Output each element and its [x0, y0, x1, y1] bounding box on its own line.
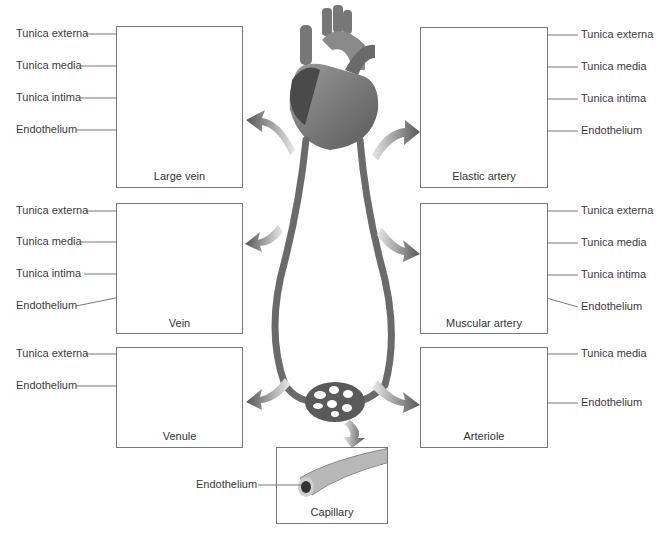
panel-caption: Elastic artery [421, 170, 547, 182]
arrow-to-elastic-artery [372, 120, 420, 160]
label-vein-endothelium: Endothelium [16, 299, 77, 312]
heart-illustration [290, 5, 379, 150]
arrow-to-arteriole [372, 380, 420, 413]
label-vein-tunica-media: Tunica media [16, 235, 82, 248]
arrow-to-capillary [343, 420, 365, 448]
label-muscular-artery-tunica-media: Tunica media [581, 236, 647, 249]
panel-capillary: Capillary [276, 447, 388, 524]
panel-venule: Venule [116, 347, 243, 448]
label-vein-tunica-externa: Tunica externa [16, 204, 88, 217]
panel-caption: Vein [117, 317, 242, 329]
label-muscular-artery-endothelium: Endothelium [581, 300, 642, 313]
label-muscular-artery-tunica-externa: Tunica externa [581, 204, 653, 217]
label-large-vein-tunica-media: Tunica media [16, 59, 82, 72]
panel-caption: Muscular artery [421, 317, 547, 329]
panel-caption: Capillary [277, 506, 387, 518]
panel-elastic-artery: Elastic artery [420, 27, 548, 188]
label-elastic-artery-tunica-media: Tunica media [581, 60, 647, 73]
label-venule-endothelium: Endothelium [16, 379, 77, 392]
arrow-to-muscular-artery [377, 228, 420, 262]
panel-arteriole: Arteriole [420, 347, 548, 448]
panel-vein: Vein [116, 203, 243, 334]
label-vein-tunica-intima: Tunica intima [16, 267, 81, 280]
label-capillary-endothelium: Endothelium [196, 478, 257, 491]
label-elastic-artery-tunica-externa: Tunica externa [581, 28, 653, 41]
panel-caption: Venule [117, 430, 242, 442]
label-venule-tunica-externa: Tunica externa [16, 347, 88, 360]
label-large-vein-tunica-intima: Tunica intima [16, 91, 81, 104]
arrow-to-venule [246, 378, 290, 410]
label-muscular-artery-tunica-intima: Tunica intima [581, 268, 646, 281]
label-arteriole-tunica-media: Tunica media [581, 347, 647, 360]
label-large-vein-endothelium: Endothelium [16, 123, 77, 136]
label-arteriole-endothelium: Endothelium [581, 396, 642, 409]
label-elastic-artery-endothelium: Endothelium [581, 124, 642, 137]
arrow-to-vein [245, 225, 283, 252]
vessel-loop [275, 140, 391, 401]
arrow-to-large-vein [246, 110, 295, 155]
panel-muscular-artery: Muscular artery [420, 203, 548, 334]
panel-large-vein: Large vein [116, 26, 243, 188]
panel-caption: Arteriole [421, 430, 547, 442]
label-large-vein-tunica-externa: Tunica externa [16, 27, 88, 40]
panel-caption: Large vein [117, 170, 242, 182]
label-elastic-artery-tunica-intima: Tunica intima [581, 92, 646, 105]
capillary-bed [305, 382, 365, 422]
